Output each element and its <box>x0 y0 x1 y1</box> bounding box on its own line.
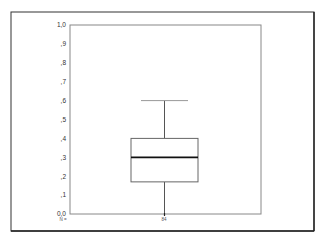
n-value-label: 84 <box>161 217 167 222</box>
y-axis: 0,0,1,2,3,4,5,6,7,8,91,0 <box>57 21 66 217</box>
y-tick-label: 1,0 <box>57 21 66 28</box>
y-tick-label: ,8 <box>61 59 67 66</box>
y-tick-label: ,7 <box>61 78 67 85</box>
outer-frame <box>11 12 314 231</box>
y-tick-label: ,5 <box>61 116 67 123</box>
y-tick-label: ,3 <box>61 154 67 161</box>
plot-area <box>70 25 261 214</box>
y-tick-label: ,2 <box>61 173 67 180</box>
y-tick-label: ,9 <box>61 40 67 47</box>
box-plot-figure: 0,0,1,2,3,4,5,6,7,8,91,0 N = 84 <box>0 0 322 241</box>
n-prefix-label: N = <box>59 217 67 222</box>
iqr-box <box>131 138 198 181</box>
box-series <box>131 101 198 216</box>
y-tick-label: ,6 <box>61 97 67 104</box>
y-tick-label: ,4 <box>61 135 67 142</box>
y-tick-label: ,1 <box>61 191 67 198</box>
